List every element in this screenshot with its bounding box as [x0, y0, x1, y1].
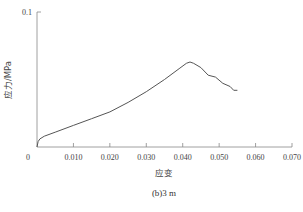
x-tick-label: 0.010 [64, 153, 82, 162]
x-tick-label: 0.030 [137, 153, 155, 162]
x-axis-title: 应变 [155, 168, 173, 178]
x-tick-label: 0.060 [247, 153, 265, 162]
y-axis-title: 应力/MPa [3, 61, 13, 99]
x-tick-label: 0.020 [101, 153, 119, 162]
y-tick-label: 0.1 [22, 8, 32, 17]
x-ticks: 00.0100.0200.0300.0400.0500.0600.070 [26, 143, 301, 162]
x-tick-label: 0 [26, 153, 30, 162]
x-tick-label: 0.070 [283, 153, 301, 162]
stress-strain-curve [37, 62, 237, 147]
x-tick-label: 0.040 [174, 153, 192, 162]
figure-caption: (b)3 m [152, 188, 176, 198]
stress-strain-chart: 00.0100.0200.0300.0400.0500.0600.070 0.1… [0, 0, 303, 212]
y-ticks: 0.1 [22, 8, 32, 17]
x-tick-label: 0.050 [210, 153, 228, 162]
